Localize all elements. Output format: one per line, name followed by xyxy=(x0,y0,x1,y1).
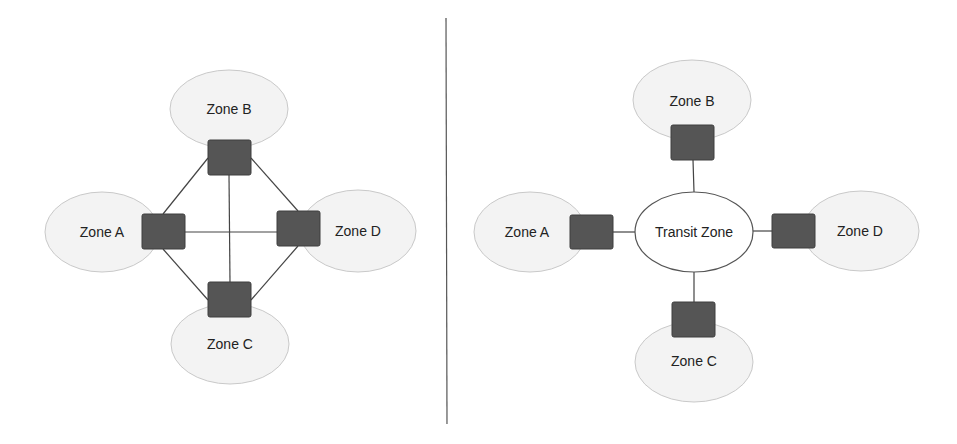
link-d-c xyxy=(251,246,298,300)
right-zone-d: Zone D xyxy=(803,191,919,271)
left-zone-d-label: Zone D xyxy=(335,223,381,239)
right-zone-c-firewall-icon xyxy=(672,302,715,337)
left-zone-d-firewall-icon xyxy=(277,211,320,246)
left-zone-c-label: Zone C xyxy=(207,336,253,352)
right-zone-b-firewall-icon xyxy=(671,125,714,160)
link-b-c xyxy=(229,175,230,282)
right-zone-c-label: Zone C xyxy=(671,353,717,369)
link-c-a xyxy=(163,249,208,300)
link-a-b xyxy=(163,158,208,214)
transit-zone-diagram: Zone B Zone A Zone D Zone C Transit Zone xyxy=(474,60,919,402)
diagram-canvas: Zone B Zone A Zone D Zone C xyxy=(0,0,957,444)
right-zone-d-label: Zone D xyxy=(837,223,883,239)
left-zone-b-label: Zone B xyxy=(206,101,251,117)
right-zone-b-label: Zone B xyxy=(669,93,714,109)
full-mesh-diagram: Zone B Zone A Zone D Zone C xyxy=(45,70,416,384)
left-zone-b-firewall-icon xyxy=(208,140,251,175)
right-zone-a: Zone A xyxy=(474,192,586,272)
right-zone-d-firewall-icon xyxy=(772,214,815,248)
transit-zone: Transit Zone xyxy=(635,192,753,272)
left-zone-c-firewall-icon xyxy=(208,282,251,317)
link-b-d xyxy=(251,158,298,211)
section-divider xyxy=(446,18,447,424)
left-zone-a-firewall-icon xyxy=(142,214,185,249)
left-zone-b: Zone B xyxy=(170,70,288,148)
transit-zone-label: Transit Zone xyxy=(655,224,733,240)
left-zone-a-label: Zone A xyxy=(80,224,125,240)
link-b-transit xyxy=(693,160,694,192)
right-zone-a-firewall-icon xyxy=(570,215,613,249)
right-zone-a-label: Zone A xyxy=(505,224,550,240)
